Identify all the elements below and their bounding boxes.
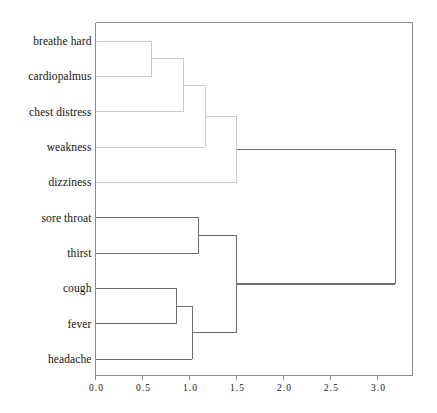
x-axis-tick-label-5: 2.5 bbox=[324, 383, 339, 393]
leaf-label-cough: cough bbox=[63, 282, 92, 294]
leaf-label-weakness: weakness bbox=[47, 141, 92, 153]
dendrogram-plot bbox=[0, 0, 437, 413]
dendrogram-figure: breathe hardcardiopalmuschest distresswe… bbox=[0, 0, 437, 413]
leaf-label-headache: headache bbox=[48, 353, 92, 365]
leaf-label-dizziness: dizziness bbox=[48, 176, 91, 188]
leaf-label-sore-throat: sore throat bbox=[42, 212, 92, 224]
x-axis-tick-label-1: 0.5 bbox=[136, 383, 151, 393]
x-axis-tick-label-6: 3.0 bbox=[371, 383, 386, 393]
leaf-label-chest-distress: chest distress bbox=[29, 106, 91, 118]
leaf-label-fever: fever bbox=[67, 318, 91, 330]
x-axis-tick-label-2: 1.0 bbox=[183, 383, 198, 393]
x-axis-tick-label-0: 0.0 bbox=[89, 383, 104, 393]
leaf-label-breathe-hard: breathe hard bbox=[33, 35, 91, 47]
x-axis-tick-label-4: 2.0 bbox=[277, 383, 292, 393]
leaf-label-cardiopalmus: cardiopalmus bbox=[28, 70, 91, 82]
leaf-label-thirst: thirst bbox=[67, 247, 91, 259]
x-axis-tick-label-3: 1.5 bbox=[230, 383, 245, 393]
